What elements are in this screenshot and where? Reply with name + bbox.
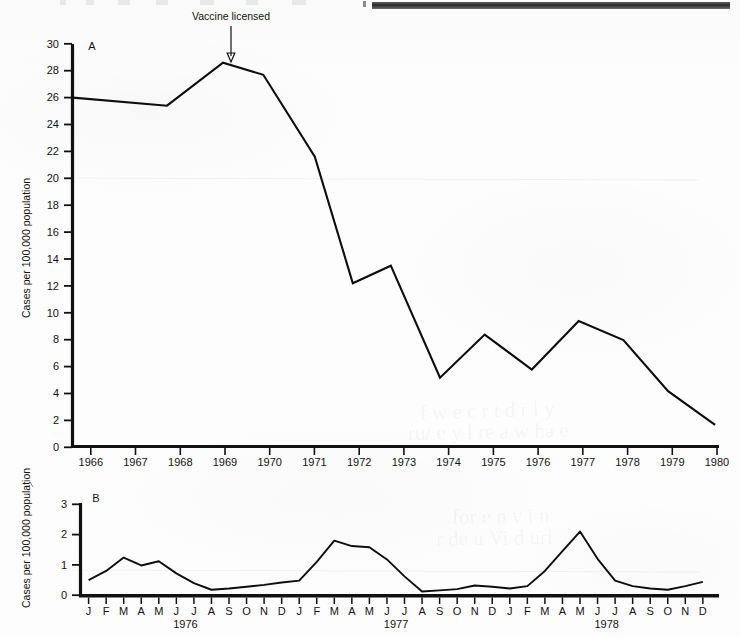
panel-a-ytick-label: 0 xyxy=(53,441,59,453)
page-header-ghost-text xyxy=(60,0,360,5)
panel-a-y-axis-label: Cases per 100,000 population xyxy=(20,178,32,318)
panel-a-ytick-label: 24 xyxy=(47,118,59,130)
panel-b-letter: B xyxy=(92,492,99,504)
panel-b-month-label: M xyxy=(330,605,339,617)
panel-a-x-ticks: 1966 1967 1968 1969 1970 1971 1972 1973 … xyxy=(79,448,730,468)
panel-a-letter: A xyxy=(88,40,96,52)
panel-b-ytick-label: 2 xyxy=(61,528,67,540)
panel-b-month-label: M xyxy=(540,605,549,617)
panel-a-xtick-label: 1973 xyxy=(392,456,416,468)
panel-a-xtick-label: 1979 xyxy=(660,456,684,468)
panel-b-month-label: N xyxy=(260,605,268,617)
panel-a-xtick-label: 1978 xyxy=(615,456,639,468)
panel-b-month-label: A xyxy=(629,605,637,617)
panel-b-month-label: J xyxy=(595,605,601,617)
panel-a-xtick-label: 1974 xyxy=(436,456,460,468)
panel-a-xtick-label: 1968 xyxy=(168,456,192,468)
panel-b-year-label: 1976 xyxy=(173,618,197,630)
panel-b-ytick-label: 0 xyxy=(61,589,67,601)
panel-b-month-label: D xyxy=(278,605,286,617)
panel-a-ytick-label: 12 xyxy=(47,280,59,292)
vaccine-licensed-label: Vaccine licensed xyxy=(192,10,270,22)
panel-b-month-label: M xyxy=(154,605,163,617)
panel-b-month-label: A xyxy=(418,605,426,617)
panel-b-month-label: O xyxy=(242,605,251,617)
panel-b-month-label: O xyxy=(663,605,672,617)
panel-a-xtick-label: 1967 xyxy=(123,456,147,468)
panel-b-month-label: F xyxy=(103,605,110,617)
panel-b-month-label: J xyxy=(507,605,513,617)
figure-page: f w e c r t d r l y ru/ e y l re a w ha … xyxy=(0,0,740,637)
panel-b-month-label: S xyxy=(225,605,232,617)
panel-a-ytick-label: 4 xyxy=(53,387,59,399)
panel-a-ytick-label: 26 xyxy=(47,91,59,103)
panel-a-ytick-label: 16 xyxy=(47,226,59,238)
panel-b-month-label: S xyxy=(436,605,443,617)
panel-b-month-label: A xyxy=(559,605,567,617)
panel-a-ytick-label: 2 xyxy=(53,414,59,426)
panel-b-month-label: S xyxy=(647,605,654,617)
panel-b-month-label: J xyxy=(402,605,408,617)
panel-b-year-labels: 1976 1977 1978 xyxy=(173,618,619,630)
panel-a-ytick-label: 10 xyxy=(47,307,59,319)
panel-b-month-label: N xyxy=(471,605,479,617)
panel-b-month-label: D xyxy=(699,605,707,617)
panel-b-x-ticks: JFMAMJJASONDJFMAMJJASONDJFMAMJJASOND xyxy=(86,598,707,618)
panel-b-month-label: J xyxy=(612,605,618,617)
panel-b-month-label: A xyxy=(138,605,146,617)
svg-text:ru/ e y l re a w ha e: ru/ e y l re a w ha e xyxy=(408,418,569,445)
panel-b-ytick-label: 3 xyxy=(61,498,67,510)
header-rule-tick xyxy=(363,1,366,7)
panel-a-ytick-label: 6 xyxy=(53,360,59,372)
panel-a-xtick-label: 1972 xyxy=(347,456,371,468)
panel-b-month-label: A xyxy=(348,605,356,617)
panel-b-month-label: N xyxy=(681,605,689,617)
panel-b-series-line xyxy=(89,532,703,592)
panel-a-xtick-label: 1971 xyxy=(302,456,326,468)
panel-a-ytick-label: 18 xyxy=(47,199,59,211)
panel-a-ytick-label: 8 xyxy=(53,333,59,345)
header-rule-bar xyxy=(372,2,730,9)
panel-a: Cases per 100,000 population A 0 2 4 6 8… xyxy=(20,10,729,468)
panel-b-year-label: 1978 xyxy=(594,618,618,630)
panel-b-month-label: D xyxy=(488,605,496,617)
panel-b-month-label: J xyxy=(384,605,390,617)
panel-a-series-line xyxy=(73,63,715,425)
panel-a-ytick-label: 20 xyxy=(47,172,59,184)
panel-b-month-label: J xyxy=(86,605,92,617)
panel-b-year-label: 1977 xyxy=(384,618,408,630)
panel-b-month-label: J xyxy=(191,605,197,617)
panel-a-ytick-label: 14 xyxy=(47,253,59,265)
panel-a-ytick-label: 30 xyxy=(47,38,59,50)
panel-b: Cases per 100,000 population B 0 1 2 3 J… xyxy=(20,468,719,630)
panel-b-month-label: F xyxy=(524,605,531,617)
panel-b-month-label: M xyxy=(575,605,584,617)
panel-a-xtick-label: 1969 xyxy=(213,456,237,468)
panel-b-month-label: F xyxy=(313,605,320,617)
bleedthrough-artifacts: f w e c r t d r l y ru/ e y l re a w ha … xyxy=(60,178,700,572)
panel-b-month-label: M xyxy=(119,605,128,617)
panel-a-xtick-label: 1975 xyxy=(481,456,505,468)
panel-b-month-label: A xyxy=(208,605,216,617)
panel-b-y-axis-label: Cases per 100,000 population xyxy=(20,468,32,608)
panel-b-month-label: M xyxy=(365,605,374,617)
panel-a-xtick-label: 1966 xyxy=(79,456,103,468)
panel-a-ytick-label: 28 xyxy=(47,64,59,76)
panel-b-ytick-label: 1 xyxy=(61,559,67,571)
panel-a-ytick-label: 22 xyxy=(47,145,59,157)
panel-b-month-label: J xyxy=(174,605,180,617)
panel-b-month-label: O xyxy=(453,605,462,617)
panel-b-y-ticks: 0 1 2 3 xyxy=(61,498,80,601)
panel-a-xtick-label: 1977 xyxy=(571,456,595,468)
panel-a-xtick-label: 1976 xyxy=(526,456,550,468)
vaccine-licensed-annotation: Vaccine licensed xyxy=(192,10,270,62)
panel-a-y-ticks: 0 2 4 6 8 10 12 14 16 18 20 22 24 26 28 … xyxy=(47,38,72,454)
two-panel-line-chart: f w e c r t d r l y ru/ e y l re a w ha … xyxy=(0,0,740,637)
panel-b-month-label: J xyxy=(296,605,302,617)
panel-a-xtick-label: 1980 xyxy=(705,456,729,468)
panel-a-xtick-label: 1970 xyxy=(257,456,281,468)
svg-text:r de u Vi d uri: r de u Vi d uri xyxy=(436,525,553,551)
